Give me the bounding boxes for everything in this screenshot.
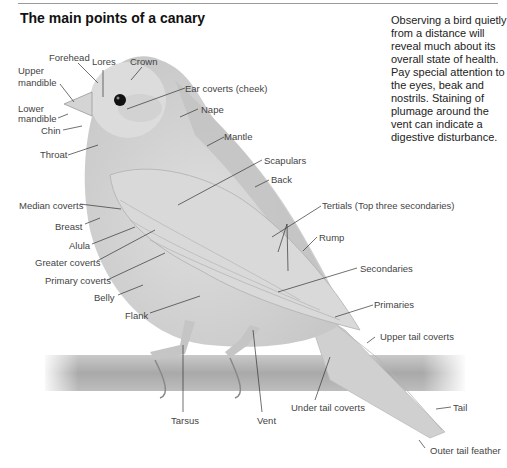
perch bbox=[45, 355, 465, 391]
label-scapulars: Scapulars bbox=[264, 155, 306, 166]
label-outer-tail-feather: Outer tail feather bbox=[430, 445, 501, 456]
label-nape: Nape bbox=[201, 104, 224, 115]
label-belly: Belly bbox=[94, 292, 115, 303]
label-upper-tail-coverts: Upper tail coverts bbox=[380, 331, 454, 342]
label-primary-coverts: Primary coverts bbox=[45, 275, 111, 286]
label-median-coverts: Median coverts bbox=[19, 200, 83, 211]
label-alula: Alula bbox=[69, 240, 90, 251]
label-tarsus: Tarsus bbox=[171, 415, 199, 426]
label-rump: Rump bbox=[319, 232, 344, 243]
label-secondaries: Secondaries bbox=[360, 263, 413, 274]
label-greater-coverts: Greater coverts bbox=[35, 257, 100, 268]
label-vent: Vent bbox=[257, 415, 276, 426]
label-back: Back bbox=[271, 174, 292, 185]
label-mantle: Mantle bbox=[224, 131, 253, 142]
label-breast: Breast bbox=[55, 221, 82, 232]
label-chin: Chin bbox=[41, 125, 61, 136]
label-tertials: Tertials (Top three secondaries) bbox=[322, 200, 455, 211]
label-flank: Flank bbox=[125, 310, 148, 321]
label-upper-mandible: Upper bbox=[18, 65, 44, 76]
label-ear-coverts: Ear coverts (cheek) bbox=[185, 83, 267, 94]
label-lores: Lores bbox=[92, 56, 116, 67]
label-forehead: Forehead bbox=[49, 52, 90, 63]
label-under-tail-coverts: Under tail coverts bbox=[291, 402, 365, 413]
label-tail: Tail bbox=[453, 402, 467, 413]
canary-illustration bbox=[0, 0, 507, 468]
label-upper-mandible-2: mandible bbox=[18, 77, 57, 88]
label-lower-mandible-2: mandible bbox=[18, 113, 57, 124]
label-crown: Crown bbox=[130, 56, 157, 67]
label-throat: Throat bbox=[40, 149, 67, 160]
label-primaries: Primaries bbox=[374, 299, 414, 310]
